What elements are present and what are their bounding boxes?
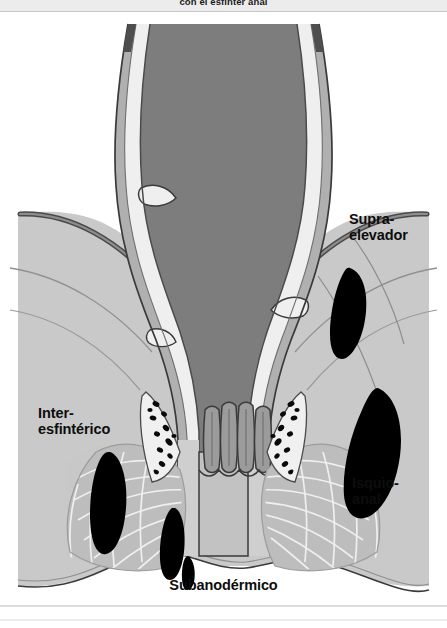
label-supralevator: Supra- elevador [349,212,408,243]
label-ischioanal: Isquio- anal [352,476,399,507]
label-subanodermal: Subanodérmico [0,578,447,594]
figure-top-caption: con el esfínter anal [0,0,447,7]
perianal-abscess-diagram [0,0,447,628]
label-intersphincteric: Inter- esfintérico [38,406,110,437]
